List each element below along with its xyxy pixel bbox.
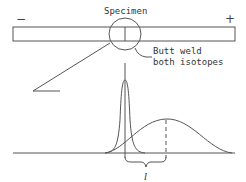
distance-bracket bbox=[125, 157, 166, 167]
annotation-line-1: Butt weld bbox=[153, 46, 202, 56]
plus-sign: + bbox=[225, 12, 235, 26]
specimen-label: Specimen bbox=[104, 6, 147, 16]
diffusion-diagram: − + Specimen Butt weld both isotopes l bbox=[0, 0, 246, 182]
pointer-line bbox=[33, 43, 110, 91]
annotation-line-2: both isotopes bbox=[153, 57, 223, 67]
distance-label: l bbox=[144, 171, 147, 182]
minus-sign: − bbox=[16, 12, 26, 26]
broad-peak bbox=[105, 119, 232, 153]
specimen-bar bbox=[13, 27, 235, 41]
annotation-leader bbox=[135, 48, 152, 57]
